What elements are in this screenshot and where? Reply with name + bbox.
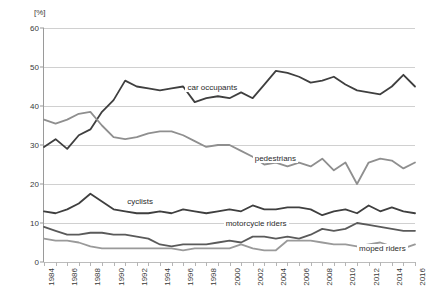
x-axis-tickmark-2014 — [392, 262, 393, 266]
x-axis-tickmark-1989 — [102, 262, 103, 266]
x-axis-tickmark-2007 — [311, 262, 312, 266]
x-axis-tick-label-1988: 1988 — [93, 268, 102, 286]
x-axis-tickmark-1990 — [114, 262, 115, 266]
series-label-car-occupants: car occupants — [185, 83, 239, 92]
series-label-motorcycle-riders: motorcycle riders — [224, 219, 289, 228]
series-label-cyclists: cyclists — [125, 197, 155, 206]
x-axis-tickmark-2000 — [230, 262, 231, 266]
x-axis-tickmark-1988 — [90, 262, 91, 266]
x-axis-tick-label-2006: 2006 — [302, 268, 311, 286]
x-axis-tickmark-1991 — [125, 262, 126, 266]
x-axis-tickmark-2009 — [334, 262, 335, 266]
series-line-cyclists — [44, 194, 415, 215]
x-axis-tick-label-1984: 1984 — [47, 268, 56, 286]
x-axis-tickmark-2012 — [369, 262, 370, 266]
series-line-pedestrians — [44, 112, 415, 184]
x-axis-tick-label-2012: 2012 — [372, 268, 381, 286]
x-axis-tickmark-1995 — [172, 262, 173, 266]
x-axis-tick-label-2010: 2010 — [348, 268, 357, 286]
x-axis-tickmark-1987 — [79, 262, 80, 266]
x-axis-tickmark-2011 — [357, 262, 358, 266]
x-axis-tickmark-1994 — [160, 262, 161, 266]
x-axis-tickmark-1996 — [183, 262, 184, 266]
x-axis-tickmark-2016 — [415, 262, 416, 266]
x-axis-tick-label-1986: 1986 — [70, 268, 79, 286]
x-axis-tickmark-1985 — [56, 262, 57, 266]
chart-container: [%] 0102030405060 1984198619881990199219… — [0, 0, 427, 300]
series-label-pedestrians: pedestrians — [253, 154, 298, 163]
x-axis-tickmark-2002 — [253, 262, 254, 266]
x-axis-tickmark-2005 — [287, 262, 288, 266]
plot-area: 0102030405060 19841986198819901992199419… — [44, 28, 415, 262]
x-axis-tickmark-2008 — [322, 262, 323, 266]
x-axis-tick-label-2000: 2000 — [233, 268, 242, 286]
x-axis-tick-label-2004: 2004 — [279, 268, 288, 286]
x-axis-tick-label-1994: 1994 — [163, 268, 172, 286]
x-axis-tick-label-2016: 2016 — [418, 268, 427, 286]
series-label-moped-riders: moped riders — [357, 244, 408, 253]
x-axis-tickmark-2015 — [403, 262, 404, 266]
x-axis-tick-label-2008: 2008 — [325, 268, 334, 286]
x-axis-tick-label-1998: 1998 — [209, 268, 218, 286]
x-axis-tickmark-2013 — [380, 262, 381, 266]
x-axis-tick-label-2002: 2002 — [256, 268, 265, 286]
x-axis-tick-label-1992: 1992 — [140, 268, 149, 286]
y-axis-unit-label: [%] — [34, 8, 46, 17]
x-axis-tickmark-1992 — [137, 262, 138, 266]
x-axis-tickmark-2010 — [345, 262, 346, 266]
x-axis-tick-label-1990: 1990 — [117, 268, 126, 286]
x-axis-tickmark-2001 — [241, 262, 242, 266]
x-axis-tickmark-1993 — [148, 262, 149, 266]
x-axis-tick-label-2014: 2014 — [395, 268, 404, 286]
x-axis-tickmark-1984 — [44, 262, 45, 266]
x-axis-tickmark-2006 — [299, 262, 300, 266]
x-axis-tick-label-1996: 1996 — [186, 268, 195, 286]
x-axis-tickmark-2004 — [276, 262, 277, 266]
x-axis-tickmark-1998 — [206, 262, 207, 266]
x-axis-tickmark-2003 — [264, 262, 265, 266]
x-axis-tickmark-1999 — [218, 262, 219, 266]
x-axis-tickmark-1997 — [195, 262, 196, 266]
x-axis-tickmark-1986 — [67, 262, 68, 266]
